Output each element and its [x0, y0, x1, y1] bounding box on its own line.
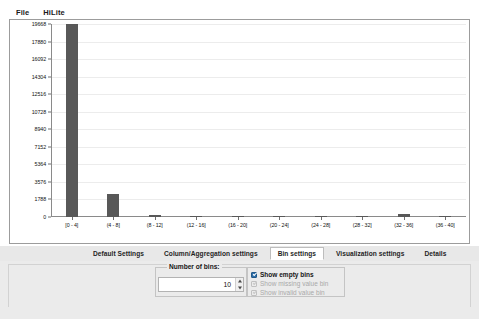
y-tick-label: 17880 [32, 39, 46, 45]
y-tick-label: 19668 [32, 21, 46, 27]
x-tick-mark [72, 217, 73, 220]
x-tick-label: (12 - 16] [187, 222, 206, 228]
y-axis: 0178835765364715289401072812516143041609… [10, 24, 51, 218]
stepper-arrows[interactable] [235, 278, 243, 291]
histogram-view-window: File HiLite 0178835765364715289401072812… [0, 0, 479, 319]
stepper-decrement-icon[interactable] [236, 285, 243, 292]
x-tick-label: [0 - 4] [65, 222, 78, 228]
tab-visualization-settings[interactable]: Visualization settings [328, 247, 412, 260]
menu-hilite[interactable]: HiLite [36, 7, 71, 19]
y-tick-label: 16092 [32, 56, 46, 62]
y-tick-label: 8940 [35, 126, 46, 132]
x-tick-mark [113, 217, 114, 220]
number-of-bins-stepper[interactable]: 10 [158, 277, 244, 292]
bar-series [51, 24, 466, 217]
checkbox-label: Show empty bins [260, 271, 314, 278]
x-tick-mark [362, 217, 363, 220]
y-tick-label: 1788 [35, 196, 46, 202]
tabstrip: Default SettingsColumn/Aggregation setti… [85, 247, 454, 260]
x-tick-mark [445, 217, 446, 220]
bin-options-group: Show empty binsShow missing value binSho… [247, 267, 345, 297]
x-tick-mark [238, 217, 239, 220]
x-tick-label: (20 - 24] [270, 222, 289, 228]
histogram-chart-panel: 0178835765364715289401072812516143041609… [9, 19, 470, 244]
x-tick-mark [155, 217, 156, 220]
y-tick-label: 10728 [32, 109, 46, 115]
checkbox-label: Show missing value bin [260, 280, 328, 287]
number-of-bins-input[interactable]: 10 [159, 278, 235, 291]
checkbox-show-invalid-value-bin: Show invalid value bin [251, 288, 341, 297]
checkbox-icon [251, 290, 257, 296]
x-tick-mark [279, 217, 280, 220]
checkbox-show-missing-value-bin: Show missing value bin [251, 279, 341, 288]
x-tick-label: (28 - 32] [353, 222, 372, 228]
tab-bin-settings[interactable]: Bin settings [270, 247, 324, 260]
y-tick-label: 14304 [32, 74, 46, 80]
tab-default-settings[interactable]: Default Settings [85, 247, 152, 260]
checkbox-icon[interactable] [251, 272, 257, 278]
checkbox-icon [251, 281, 257, 287]
x-tick-label: (32 - 36] [394, 222, 413, 228]
x-tick-label: (24 - 28] [311, 222, 330, 228]
x-tick-mark [404, 217, 405, 220]
x-axis: [0 - 4](4 - 8](8 - 12](12 - 16](16 - 20]… [51, 217, 466, 239]
menubar: File HiLite [9, 7, 470, 19]
number-of-bins-label: Number of bins: [167, 263, 222, 271]
x-tick-label: (36 - 40] [436, 222, 455, 228]
x-tick-label: (4 - 8] [107, 222, 120, 228]
bar[interactable] [66, 24, 78, 217]
y-tick-label: 7152 [35, 144, 46, 150]
checkbox-label: Show invalid value bin [260, 289, 325, 296]
y-tick-label: 5364 [35, 161, 46, 167]
menu-file[interactable]: File [9, 7, 36, 19]
tab-details[interactable]: Details [416, 247, 454, 260]
y-tick-label: 0 [43, 214, 46, 220]
x-tick-label: (16 - 20] [228, 222, 247, 228]
y-tick-label: 12516 [32, 91, 46, 97]
y-tick-label: 3576 [35, 179, 46, 185]
x-tick-label: (8 - 12] [147, 222, 163, 228]
x-tick-mark [196, 217, 197, 220]
tab-column-aggregation-settings[interactable]: Column/Aggregation settings [156, 247, 266, 260]
bar[interactable] [107, 194, 119, 217]
checkbox-show-empty-bins[interactable]: Show empty bins [251, 270, 341, 279]
x-tick-mark [321, 217, 322, 220]
